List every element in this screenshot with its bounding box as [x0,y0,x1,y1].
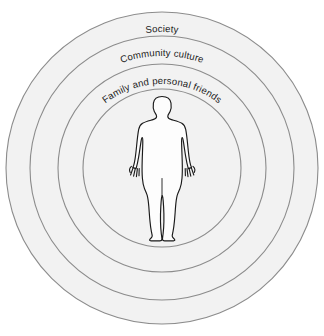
diagram-canvas: Society Community culture Family and per… [0,0,324,336]
concentric-circles-diagram: Society Community culture Family and per… [0,0,324,336]
